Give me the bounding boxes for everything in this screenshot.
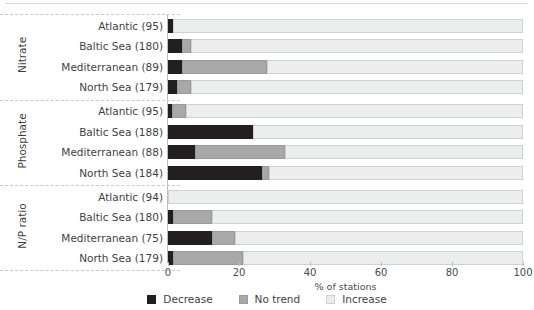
category-label: Baltic Sea (188): [3, 126, 163, 138]
decrease-swatch: [147, 295, 156, 304]
bar-segment-no-trend[interactable]: [262, 166, 269, 180]
bar-segment-no-trend[interactable]: [212, 231, 235, 245]
bar-segment-increase[interactable]: [168, 190, 523, 204]
legend-item-increase[interactable]: Increase: [326, 293, 386, 305]
bar-segment-no-trend[interactable]: [177, 80, 191, 94]
bar-segment-decrease[interactable]: [168, 80, 177, 94]
x-tick: [239, 262, 240, 266]
bar-segment-decrease[interactable]: [168, 60, 182, 74]
chart-legend: Decrease No trend Increase: [0, 291, 534, 307]
bar-segment-increase[interactable]: [191, 80, 523, 94]
bar-segment-increase[interactable]: [235, 231, 523, 245]
x-tick-label: 40: [304, 267, 317, 278]
bar-segment-decrease[interactable]: [168, 166, 262, 180]
category-labels: Atlantic (95)Baltic Sea (180)Mediterrane…: [0, 14, 163, 262]
bar-segment-increase[interactable]: [186, 104, 523, 118]
bar-segment-increase[interactable]: [191, 39, 523, 53]
category-label: Atlantic (95): [3, 20, 163, 32]
bar-row: [168, 190, 523, 204]
x-tick-label: 100: [513, 267, 532, 278]
x-tick-label: 80: [446, 267, 459, 278]
category-label: North Sea (179): [3, 252, 163, 264]
category-label: North Sea (184): [3, 167, 163, 179]
stacked-bar-chart: NitratePhosphateN/P ratio Atlantic (95)B…: [0, 0, 534, 310]
bar-row: [168, 60, 523, 74]
legend-item-decrease[interactable]: Decrease: [147, 293, 212, 305]
bar-segment-increase[interactable]: [253, 125, 523, 139]
legend-item-no-trend[interactable]: No trend: [239, 293, 301, 305]
category-label: Mediterranean (88): [3, 146, 163, 158]
bar-row: [168, 251, 523, 265]
category-label: Atlantic (94): [3, 191, 163, 203]
bar-segment-no-trend[interactable]: [172, 104, 186, 118]
x-tick: [168, 262, 169, 266]
bar-segment-increase[interactable]: [285, 145, 523, 159]
category-label: Baltic Sea (180): [3, 211, 163, 223]
legend-label-increase: Increase: [342, 293, 386, 305]
plot-area: [168, 14, 523, 262]
x-tick: [381, 262, 382, 266]
x-tick: [310, 262, 311, 266]
group-separator: [0, 270, 180, 271]
bar-row: [168, 104, 523, 118]
x-tick-label: 60: [375, 267, 388, 278]
bar-row: [168, 231, 523, 245]
bar-row: [168, 166, 523, 180]
increase-swatch: [326, 295, 335, 304]
bar-row: [168, 39, 523, 53]
category-label: Atlantic (95): [3, 105, 163, 117]
category-label: Mediterranean (89): [3, 61, 163, 73]
legend-label-decrease: Decrease: [163, 293, 212, 305]
bar-segment-no-trend[interactable]: [173, 210, 212, 224]
bar-segment-increase[interactable]: [269, 166, 523, 180]
bar-segment-no-trend[interactable]: [195, 145, 286, 159]
bar-segment-increase[interactable]: [212, 210, 523, 224]
bar-segment-decrease[interactable]: [168, 145, 195, 159]
x-tick-label: 20: [233, 267, 246, 278]
bar-row: [168, 125, 523, 139]
x-tick: [523, 262, 524, 266]
bar-segment-increase[interactable]: [267, 60, 523, 74]
bar-segment-no-trend[interactable]: [182, 39, 191, 53]
bar-segment-decrease[interactable]: [168, 125, 253, 139]
bar-segment-increase[interactable]: [173, 19, 523, 33]
bar-segment-no-trend[interactable]: [173, 251, 242, 265]
bar-row: [168, 80, 523, 94]
x-tick: [452, 262, 453, 266]
bar-row: [168, 210, 523, 224]
no-trend-swatch: [239, 295, 248, 304]
legend-label-no-trend: No trend: [255, 293, 301, 305]
category-label: Mediterranean (75): [3, 232, 163, 244]
top-divider: [6, 3, 528, 4]
bar-segment-decrease[interactable]: [168, 39, 182, 53]
bar-segment-no-trend[interactable]: [182, 60, 267, 74]
bar-row: [168, 19, 523, 33]
bar-segment-decrease[interactable]: [168, 231, 212, 245]
x-tick-label: 0: [165, 267, 171, 278]
bar-segment-increase[interactable]: [243, 251, 523, 265]
category-label: Baltic Sea (180): [3, 40, 163, 52]
bar-row: [168, 145, 523, 159]
category-label: North Sea (179): [3, 81, 163, 93]
